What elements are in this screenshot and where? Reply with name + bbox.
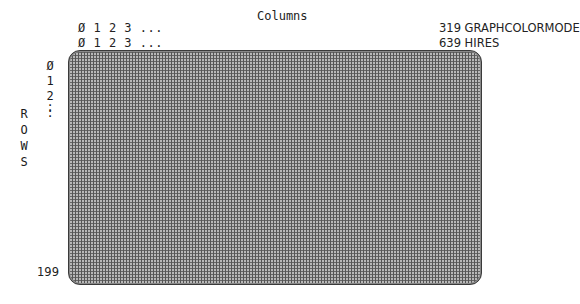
columns-title: Columns	[257, 9, 308, 23]
rows-title-letter: O	[18, 122, 30, 138]
rows-title-letter: W	[18, 138, 30, 154]
mode-label-graphcolormode: 319 GRAPHCOLORMODE	[439, 21, 580, 35]
mode-label-hires: 639 HIRES	[439, 36, 499, 50]
row-index-1: 1	[44, 74, 56, 89]
screen-pixel-grid	[68, 50, 482, 285]
row-ellipsis-dot: :	[44, 110, 56, 116]
row-ruler: Ø 1 2 : :	[44, 59, 56, 116]
rows-title: R O W S	[18, 106, 30, 170]
column-ruler-graphcolormode: Ø 1 2 3 ...	[78, 21, 163, 35]
last-row-label: 199	[37, 265, 59, 279]
row-index-0: Ø	[44, 59, 56, 74]
rows-title-letter: R	[18, 106, 30, 122]
rows-title-letter: S	[18, 154, 30, 170]
column-ruler-hires: Ø 1 2 3 ...	[78, 36, 163, 50]
